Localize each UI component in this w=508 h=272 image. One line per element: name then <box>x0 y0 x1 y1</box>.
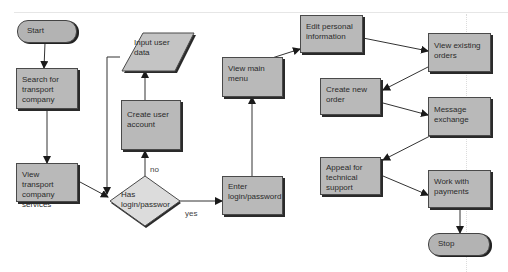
appeal-technical-support-box[interactable]: Appeal for technical support <box>320 157 381 195</box>
flowchart-canvas: Input user data Has login/passwor no yes… <box>0 0 508 272</box>
view-transport-services-box[interactable]: View transport company services <box>16 163 78 202</box>
view-main-menu-box[interactable]: View main menu <box>222 57 283 97</box>
edge-label-yes: yes <box>185 209 197 218</box>
edit-personal-information-box[interactable]: Edit personal information <box>300 15 363 53</box>
stop-terminator[interactable]: Stop <box>428 233 490 256</box>
message-exchange-box[interactable]: Message exchange <box>428 97 491 136</box>
enter-login-password-box[interactable]: Enter login/password <box>222 176 283 215</box>
search-transport-company-box[interactable]: Search for transport company <box>16 68 78 109</box>
work-with-payments-box[interactable]: Work with payments <box>428 170 491 208</box>
view-existing-orders-box[interactable]: View existing orders <box>428 33 491 72</box>
edge-label-no: no <box>150 165 159 174</box>
create-new-order-box[interactable]: Create new order <box>320 78 381 115</box>
create-user-account-box[interactable]: Create user account <box>121 100 181 150</box>
input-user-data-label: Input user data <box>134 38 178 58</box>
has-login-decision-label: Has login/passwor <box>121 190 177 210</box>
start-terminator[interactable]: Start <box>17 20 77 43</box>
